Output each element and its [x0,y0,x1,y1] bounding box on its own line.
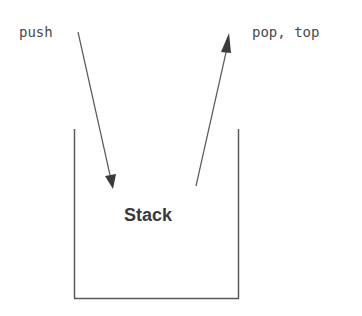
push-label: push [19,24,53,40]
push-arrowhead-icon [105,174,116,189]
stack-diagram: push pop, top Stack [0,0,362,316]
pop-arrowhead-icon [221,33,231,53]
pop-top-label: pop, top [252,24,319,40]
push-arrow [78,32,116,189]
pop-arrow [196,33,231,186]
stack-label: Stack [124,205,173,225]
